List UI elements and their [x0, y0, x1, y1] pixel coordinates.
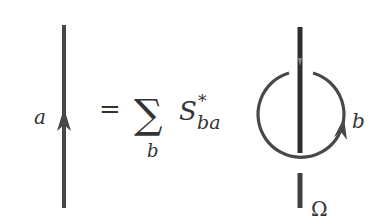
coefficient-base: S — [179, 96, 197, 126]
label-a: a — [34, 105, 46, 129]
coefficient-subscript: ba — [197, 111, 221, 133]
left-strand — [57, 25, 71, 208]
equals-sign: = — [99, 94, 121, 124]
right-diagram — [258, 27, 347, 208]
omega-label: Ω — [311, 197, 328, 221]
loop-label-b: b — [352, 109, 365, 133]
coefficient-superscript: * — [198, 91, 207, 111]
diagram-canvas: a = ∑ b S * ba b Ω — [0, 0, 375, 222]
sum-symbol: ∑ — [134, 91, 163, 137]
sum-index: b — [147, 140, 159, 161]
